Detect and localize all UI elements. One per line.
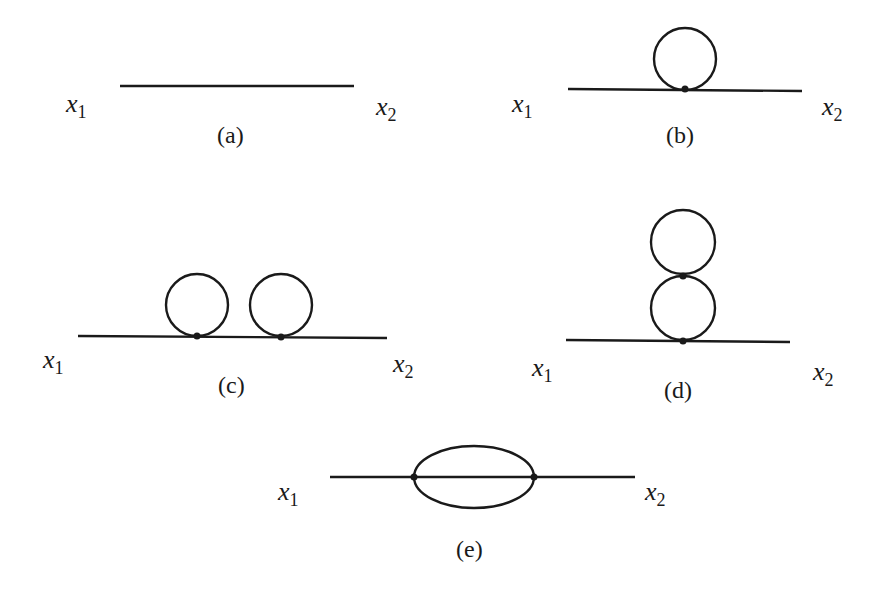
vertex-dot xyxy=(411,474,418,481)
x1-label: x1 xyxy=(42,345,64,378)
vertex-dot xyxy=(682,86,689,93)
vertex-dot xyxy=(680,273,687,280)
x2-label: x2 xyxy=(812,357,834,390)
panel-e: x1 x2 (e) xyxy=(277,446,666,562)
tadpole-loop xyxy=(654,28,716,90)
x2-label: x2 xyxy=(375,92,397,125)
x2-label: x2 xyxy=(821,92,843,125)
propagator-line xyxy=(78,336,387,338)
lower-loop xyxy=(651,276,715,340)
panel-a: x1 x2 (a) xyxy=(65,86,397,148)
x1-label: x1 xyxy=(65,89,87,122)
x1-label: x1 xyxy=(511,89,533,122)
upper-loop xyxy=(651,210,715,274)
caption-b: (b) xyxy=(666,122,694,148)
caption-d: (d) xyxy=(664,377,692,403)
x1-label: x1 xyxy=(531,353,553,386)
caption-a: (a) xyxy=(217,122,244,148)
x2-label: x2 xyxy=(644,477,666,510)
vertex-dot xyxy=(680,338,687,345)
tadpole-loop-right xyxy=(250,274,312,336)
x2-label: x2 xyxy=(392,349,414,382)
vertex-dot xyxy=(278,334,285,341)
tadpole-loop-left xyxy=(166,274,228,336)
panel-d: x1 x2 (d) xyxy=(531,210,834,403)
feynman-diagrams-figure: x1 x2 (a) x1 x2 (b) x1 x2 (c) x1 x2 (d) xyxy=(0,0,891,597)
panel-b: x1 x2 (b) xyxy=(511,28,843,148)
x1-label: x1 xyxy=(277,477,299,510)
vertex-dot xyxy=(531,474,538,481)
caption-e: (e) xyxy=(456,536,483,562)
panel-c: x1 x2 (c) xyxy=(42,274,414,398)
caption-c: (c) xyxy=(218,372,245,398)
vertex-dot xyxy=(194,333,201,340)
